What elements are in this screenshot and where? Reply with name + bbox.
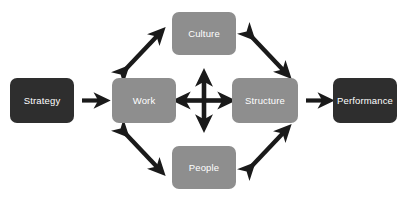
node-performance[interactable]: Performance [333, 78, 397, 123]
node-work-label: Work [133, 96, 156, 106]
node-structure-label: Structure [245, 96, 285, 106]
node-work[interactable]: Work [112, 78, 176, 123]
connector-center-four-way-icon [182, 78, 226, 123]
node-culture-label: Culture [188, 29, 220, 39]
node-culture[interactable]: Culture [172, 12, 236, 55]
connector-culture-to-structure-icon [249, 34, 285, 72]
connector-people-to-structure-icon [249, 131, 285, 169]
connector-work-to-people-icon [123, 131, 159, 169]
connector-work-to-culture-icon [123, 34, 159, 72]
node-strategy-label: Strategy [24, 96, 61, 106]
node-strategy[interactable]: Strategy [10, 78, 74, 123]
node-structure[interactable]: Structure [232, 78, 298, 123]
node-performance-label: Performance [337, 96, 393, 106]
diagram-canvas: Strategy Work Culture People Structure P… [0, 0, 406, 200]
node-people[interactable]: People [172, 146, 236, 189]
node-people-label: People [189, 163, 219, 173]
